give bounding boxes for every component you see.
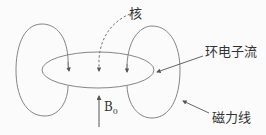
b0-label: B0 bbox=[104, 101, 118, 116]
ring-current-ellipse bbox=[42, 52, 154, 88]
diagram: 核 环电子流 磁力线 B0 bbox=[0, 0, 266, 135]
field-lines-label: 磁力线 bbox=[212, 111, 251, 124]
field-lines-pointer bbox=[183, 101, 209, 113]
ring-current-label: 环电子流 bbox=[205, 45, 257, 58]
nucleus-dashed-arrow bbox=[99, 14, 130, 71]
b0-main: B bbox=[104, 100, 113, 114]
nucleus-label: 核 bbox=[129, 7, 142, 20]
b0-subscript: 0 bbox=[113, 107, 118, 116]
